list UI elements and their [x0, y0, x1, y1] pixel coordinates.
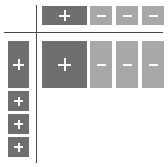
cell-collapse-button-2[interactable] [116, 41, 138, 88]
row-expand-button-3[interactable] [8, 114, 29, 134]
plus-icon [14, 143, 23, 152]
plus-icon [14, 97, 23, 106]
cell-expand-button-1[interactable] [42, 41, 87, 88]
column-collapse-button-2[interactable] [116, 6, 138, 25]
plus-icon [59, 10, 70, 21]
outline-control-panel [0, 0, 168, 167]
row-expand-button-4[interactable] [8, 137, 29, 157]
row-expand-button-1[interactable] [8, 41, 29, 88]
plus-icon [14, 120, 23, 129]
column-collapse-button-1[interactable] [90, 6, 112, 25]
vertical-axis-divider [36, 5, 37, 163]
minus-icon [149, 60, 158, 69]
plus-icon [13, 59, 24, 70]
row-expand-button-2[interactable] [8, 91, 29, 111]
minus-icon [123, 60, 132, 69]
minus-icon [123, 11, 132, 20]
plus-icon [58, 58, 71, 71]
minus-icon [97, 60, 106, 69]
horizontal-axis-divider [4, 32, 163, 33]
minus-icon [97, 11, 106, 20]
cell-collapse-button-1[interactable] [90, 41, 112, 88]
column-expand-button-1[interactable] [42, 6, 87, 25]
minus-icon [149, 11, 158, 20]
column-collapse-button-3[interactable] [142, 6, 164, 25]
cell-collapse-button-3[interactable] [142, 41, 164, 88]
